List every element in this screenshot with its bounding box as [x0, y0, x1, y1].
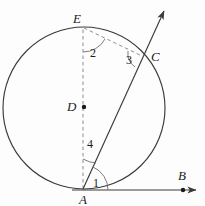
angle-label-1: 1: [93, 176, 99, 190]
point-label-D: D: [66, 99, 77, 114]
diagram-canvas: E C D A B 1 2 3 4: [0, 0, 205, 206]
angle-label-4: 4: [87, 137, 93, 151]
point-label-C: C: [151, 49, 160, 64]
point-marker-B: [181, 188, 185, 192]
angle-label-3: 3: [126, 53, 132, 67]
geometry-figure: E C D A B 1 2 3 4: [0, 0, 205, 206]
point-label-E: E: [72, 11, 81, 26]
angle-label-2: 2: [90, 46, 96, 60]
point-label-B: B: [178, 168, 186, 183]
angle-arc-4: [83, 159, 96, 163]
point-marker-D: [82, 105, 86, 109]
point-label-A: A: [78, 192, 87, 206]
